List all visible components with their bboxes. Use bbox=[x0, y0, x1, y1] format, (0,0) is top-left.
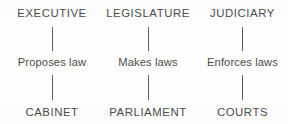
branch-body-legislature: PARLIAMENT bbox=[109, 107, 186, 118]
branch-function-executive: Proposes law bbox=[18, 57, 86, 68]
connector-line-judiciary-upper bbox=[242, 27, 243, 51]
connector-line-executive-lower bbox=[52, 75, 53, 100]
node-row-middle: Makes laws bbox=[118, 57, 177, 69]
node-row-bottom: CABINET bbox=[25, 107, 78, 119]
diagram-column-legislature: LEGISLATURE Makes laws PARLIAMENT bbox=[100, 0, 196, 124]
node-row-top: LEGISLATURE bbox=[106, 8, 190, 20]
branch-body-judiciary: COURTS bbox=[217, 107, 268, 118]
node-row-middle: Proposes law bbox=[18, 57, 86, 69]
connector-line-legislature-lower bbox=[148, 75, 149, 100]
node-row-top: EXECUTIVE bbox=[17, 8, 87, 20]
connector-line-executive-upper bbox=[52, 27, 53, 51]
branch-function-judiciary: Enforces laws bbox=[207, 57, 278, 68]
node-row-bottom: COURTS bbox=[217, 107, 268, 119]
separation-of-powers-diagram: EXECUTIVE Proposes law CABINET LEGISLATU… bbox=[0, 0, 288, 124]
branch-function-legislature: Makes laws bbox=[118, 57, 177, 68]
connector-line-judiciary-lower bbox=[242, 75, 243, 100]
branch-title-executive: EXECUTIVE bbox=[17, 8, 87, 19]
branch-title-judiciary: JUDICIARY bbox=[210, 8, 275, 19]
diagram-column-judiciary: JUDICIARY Enforces laws COURTS bbox=[196, 0, 288, 124]
branch-body-executive: CABINET bbox=[25, 107, 78, 118]
diagram-column-executive: EXECUTIVE Proposes law CABINET bbox=[0, 0, 100, 124]
diagram-columns: EXECUTIVE Proposes law CABINET LEGISLATU… bbox=[0, 0, 288, 124]
branch-title-legislature: LEGISLATURE bbox=[106, 8, 190, 19]
node-row-middle: Enforces laws bbox=[207, 57, 278, 69]
node-row-bottom: PARLIAMENT bbox=[109, 107, 186, 119]
node-row-top: JUDICIARY bbox=[210, 8, 275, 20]
connector-line-legislature-upper bbox=[148, 27, 149, 51]
